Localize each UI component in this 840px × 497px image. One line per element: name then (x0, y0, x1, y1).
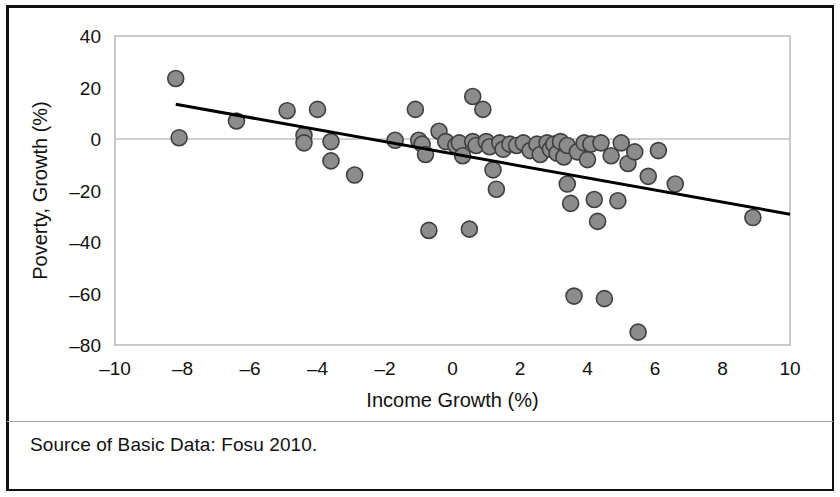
scatter-plot: 40200–20–40–60–80 –10–8–6–4–20246810 Inc… (0, 0, 840, 497)
data-point (485, 162, 501, 178)
data-point (279, 103, 295, 119)
data-point (323, 134, 339, 150)
x-tick-label: –10 (99, 358, 131, 379)
data-point (667, 176, 683, 192)
data-point (566, 288, 582, 304)
x-tick-label: 10 (779, 358, 800, 379)
data-point (650, 143, 666, 159)
x-tick-label: –2 (374, 358, 395, 379)
x-tick-label: –4 (307, 358, 329, 379)
x-tick-label: 8 (717, 358, 728, 379)
data-point (563, 195, 579, 211)
data-point (421, 222, 437, 238)
data-point (310, 101, 326, 117)
data-point (590, 213, 606, 229)
data-point (610, 193, 626, 209)
data-point (296, 135, 312, 151)
y-tick-label: 0 (90, 129, 101, 150)
x-tick-label: –6 (239, 358, 260, 379)
data-point (168, 70, 184, 86)
figure-container: 40200–20–40–60–80 –10–8–6–4–20246810 Inc… (0, 0, 840, 497)
y-tick-label: 20 (80, 78, 101, 99)
x-tick-label: 0 (447, 358, 458, 379)
data-point (347, 167, 363, 183)
y-tick-label: –60 (69, 284, 101, 305)
x-axis-tick-labels: –10–8–6–4–20246810 (99, 358, 800, 379)
source-note: Source of Basic Data: Fosu 2010. (30, 434, 317, 456)
chart-area: 40200–20–40–60–80 –10–8–6–4–20246810 Inc… (0, 0, 840, 497)
data-point (407, 101, 423, 117)
plot-frame-rect (115, 36, 790, 345)
y-tick-label: –80 (69, 335, 101, 356)
x-tick-label: 6 (650, 358, 661, 379)
data-point (488, 181, 504, 197)
data-point (596, 291, 612, 307)
x-tick-label: 2 (515, 358, 526, 379)
data-point (171, 130, 187, 146)
data-point (640, 168, 656, 184)
x-axis-title: Income Growth (%) (366, 389, 538, 411)
data-point (630, 324, 646, 340)
y-axis-tick-labels: 40200–20–40–60–80 (69, 26, 101, 356)
data-point (745, 210, 761, 226)
x-tick-label: –8 (172, 358, 193, 379)
y-tick-label: –20 (69, 181, 101, 202)
data-point (461, 221, 477, 237)
note-divider (7, 421, 833, 422)
data-point (475, 101, 491, 117)
y-axis-title: Poverty, Growth (%) (29, 101, 51, 280)
y-tick-label: 40 (80, 26, 101, 47)
y-tick-label: –40 (69, 232, 101, 253)
x-tick-label: 4 (582, 358, 593, 379)
data-point (580, 152, 596, 168)
data-point (586, 192, 602, 208)
plot-frame (115, 36, 790, 345)
data-point (559, 176, 575, 192)
data-point (323, 153, 339, 169)
data-point (627, 144, 643, 160)
